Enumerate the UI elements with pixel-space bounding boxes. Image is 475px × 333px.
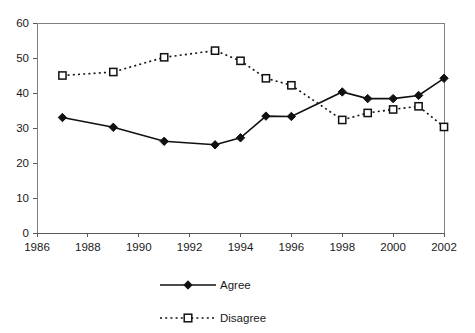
legend-marker-square-icon <box>184 314 192 322</box>
legend-label-disagree: Disagree <box>220 312 266 324</box>
x-tick-label: 1998 <box>329 241 355 253</box>
x-tick-label: 2000 <box>380 241 406 253</box>
x-tick-label: 1996 <box>279 241 305 253</box>
x-tick-label: 1990 <box>126 241 152 253</box>
data-point-marker <box>211 141 219 149</box>
y-tick-label: 50 <box>16 52 29 64</box>
data-point-marker <box>237 57 244 64</box>
data-point-marker <box>415 103 422 110</box>
y-tick-label: 20 <box>16 157 29 169</box>
legend-label-agree: Agree <box>220 279 251 291</box>
x-tick-label: 1988 <box>75 241 101 253</box>
data-point-marker <box>363 94 371 102</box>
data-point-marker <box>390 106 397 113</box>
x-tick-label: 1992 <box>177 241 203 253</box>
data-point-marker <box>211 47 218 54</box>
legend-item-agree[interactable]: Agree <box>160 279 251 291</box>
y-axis: 0102030405060 <box>16 17 37 239</box>
data-point-marker <box>339 116 346 123</box>
legend-marker-diamond-icon <box>184 281 192 289</box>
data-point-marker <box>110 68 117 75</box>
data-series-group <box>58 47 448 149</box>
series-line-disagree <box>62 51 444 127</box>
y-tick-label: 0 <box>23 227 29 239</box>
y-tick-label: 10 <box>16 192 29 204</box>
x-tick-label: 2002 <box>431 241 457 253</box>
data-point-marker <box>440 123 447 130</box>
legend-item-disagree[interactable]: Disagree <box>160 312 266 324</box>
x-tick-label: 1994 <box>228 241 254 253</box>
data-point-marker <box>338 88 346 96</box>
x-tick-label: 1986 <box>24 241 50 253</box>
data-point-marker <box>59 72 66 79</box>
y-tick-label: 60 <box>16 17 29 29</box>
data-point-marker <box>262 75 269 82</box>
chart-container: 0102030405060 19861988199019921994199619… <box>0 0 475 333</box>
data-point-marker <box>109 123 117 131</box>
data-point-marker <box>389 94 397 102</box>
series-disagree <box>59 47 448 131</box>
y-tick-label: 30 <box>16 122 29 134</box>
data-point-marker <box>160 137 168 145</box>
plot-border <box>37 23 444 233</box>
data-point-marker <box>161 54 168 61</box>
y-tick-label: 40 <box>16 87 29 99</box>
chart-legend: AgreeDisagree <box>160 279 266 324</box>
data-point-marker <box>58 113 66 121</box>
series-line-agree <box>62 78 444 145</box>
x-axis: 198619881990199219941996199820002002 <box>24 233 457 253</box>
data-point-marker <box>288 82 295 89</box>
plot-frame <box>37 23 444 233</box>
line-chart: 0102030405060 19861988199019921994199619… <box>0 0 475 333</box>
data-point-marker <box>287 112 295 120</box>
data-point-marker <box>364 109 371 116</box>
